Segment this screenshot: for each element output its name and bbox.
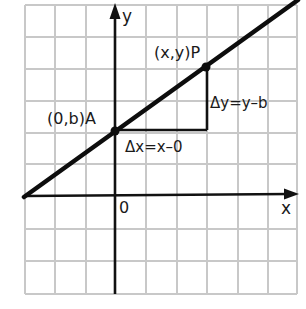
point-p-label: (x,y)P	[154, 43, 201, 62]
point-p	[202, 63, 211, 72]
y-axis	[110, 3, 121, 294]
point-a-label: (0,b)A	[47, 109, 96, 128]
delta-x-label: Δx=x–0	[125, 138, 183, 156]
point-a	[111, 127, 120, 136]
delta-y-label: Δy=y–b	[210, 94, 268, 112]
x-axis-label: x	[281, 198, 291, 218]
diagram-canvas: y x 0 (0,b)A (x,y)P Δy=y–b Δx=x–0	[0, 0, 306, 309]
coordinate-plane-diagram: y x 0 (0,b)A (x,y)P Δy=y–b Δx=x–0	[0, 0, 306, 309]
y-axis-label: y	[122, 6, 132, 26]
x-axis	[25, 189, 299, 200]
origin-label: 0	[119, 198, 129, 217]
